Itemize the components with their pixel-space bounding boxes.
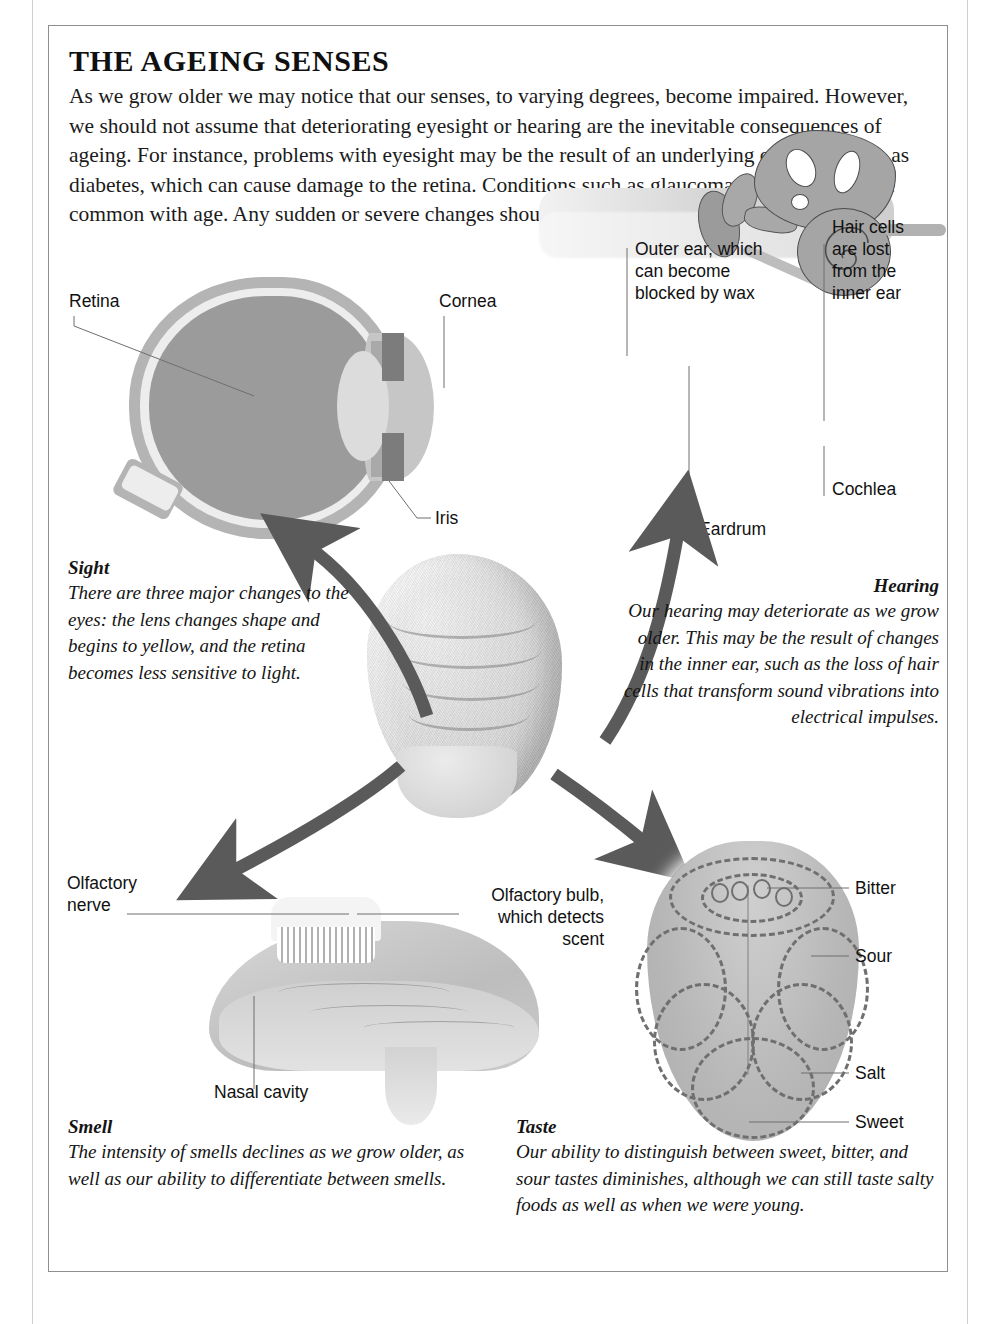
content-inner: THE AGEING SENSES As we grow older we ma… [49, 26, 949, 1273]
label-sour: Sour [855, 945, 892, 967]
sense-block-hearing: Hearing Our hearing may deteriorate as w… [619, 574, 939, 731]
page-gutter-line-right [967, 0, 968, 1324]
sense-block-smell: Smell The intensity of smells declines a… [68, 1115, 488, 1192]
content-frame: THE AGEING SENSES As we grow older we ma… [48, 25, 948, 1272]
sense-block-taste: Taste Our ability to distinguish between… [516, 1115, 936, 1219]
scan-artifact-text [220, 0, 860, 6]
sight-body: There are three major changes to the eye… [68, 580, 368, 686]
smell-body: The intensity of smells declines as we g… [68, 1139, 488, 1192]
taste-body: Our ability to distinguish between sweet… [516, 1139, 936, 1219]
document-page: THE AGEING SENSES As we grow older we ma… [0, 0, 981, 1324]
sight-heading: Sight [68, 556, 368, 580]
label-salt: Salt [855, 1062, 885, 1084]
smell-heading: Smell [68, 1115, 488, 1139]
hearing-body: Our hearing may deteriorate as we grow o… [619, 598, 939, 731]
sense-block-sight: Sight There are three major changes to t… [68, 556, 368, 686]
page-gutter-line-left [32, 0, 33, 1324]
hearing-heading: Hearing [619, 574, 939, 598]
taste-heading: Taste [516, 1115, 936, 1139]
label-bitter: Bitter [855, 877, 896, 899]
